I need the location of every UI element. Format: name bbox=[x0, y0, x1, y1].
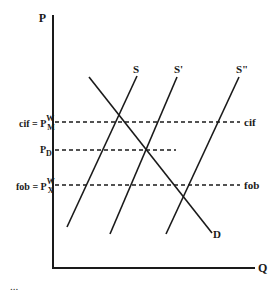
supply-curve-s-prime bbox=[110, 77, 177, 234]
price-axis-label: P bbox=[39, 11, 46, 25]
domestic-price-label: PD bbox=[40, 144, 52, 158]
cif-right-label: cif bbox=[244, 116, 256, 128]
svg-text:cif = PWM: cif = PWM bbox=[19, 114, 55, 132]
supply-s-label: S bbox=[133, 63, 139, 75]
supply-s-double-prime-label: S" bbox=[236, 63, 248, 75]
demand-d-label: D bbox=[213, 228, 221, 240]
svg-text:fob = PWX: fob = PWX bbox=[16, 177, 55, 195]
cif-left-label: cif = PWM bbox=[19, 114, 55, 132]
svg-text:PD: PD bbox=[40, 144, 52, 158]
quantity-axis-label: Q bbox=[258, 261, 267, 275]
supply-curve-s-double-prime bbox=[166, 77, 239, 234]
figure-caption: ... bbox=[10, 280, 18, 292]
supply-curve-s bbox=[67, 76, 137, 227]
supply-s-prime-label: S' bbox=[174, 63, 183, 75]
fob-right-label: fob bbox=[244, 179, 259, 191]
demand-curve bbox=[89, 77, 212, 233]
fob-left-label: fob = PWX bbox=[16, 177, 55, 195]
